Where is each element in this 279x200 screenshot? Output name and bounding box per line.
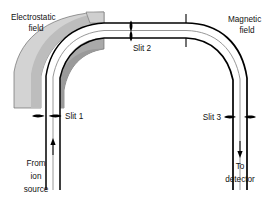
slit-2-markers — [130, 21, 133, 42]
magnetic-field-label-line1: Magnetic — [228, 15, 261, 24]
slit-2-label: Slit 2 — [133, 44, 152, 53]
slit-1-label: Slit 1 — [65, 112, 84, 121]
electrostatic-field-label-line2: field — [28, 24, 43, 33]
from-ion-source-label-line2: ion — [31, 172, 42, 181]
slit-3-left-jaw-icon — [224, 116, 236, 119]
slit-2-upper-jaw-icon — [130, 21, 133, 32]
detector-arrow — [237, 141, 242, 158]
from-ion-source-label-line1: From — [26, 159, 45, 168]
mass-spectrometer-diagram: Electrostatic field Magnetic field Slit … — [0, 0, 279, 200]
diagram-canvas: Electrostatic field Magnetic field Slit … — [0, 0, 279, 200]
to-detector-label-line1: To — [236, 162, 245, 171]
slit-3-right-jaw-icon — [244, 116, 256, 119]
beam-center-line-right — [186, 31, 240, 191]
electrostatic-field-label-line1: Electrostatic — [11, 13, 56, 22]
from-ion-source-label-line3: source — [24, 185, 49, 194]
magnetic-field-label-line2: field — [239, 26, 254, 35]
slit-2-lower-jaw-icon — [130, 31, 133, 42]
detector-arrow-head-icon — [237, 151, 242, 158]
slit-1-left-jaw-icon — [32, 115, 45, 118]
to-detector-label-line2: detector — [225, 175, 255, 184]
slit-3-label: Slit 3 — [203, 113, 222, 122]
